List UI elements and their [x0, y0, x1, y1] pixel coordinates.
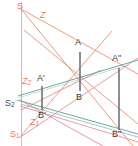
geometry-figure: S Z A A" A' B B' B" Z2 S2 Z1 S1: [0, 0, 138, 146]
label-S2-subscript: 2: [11, 101, 15, 108]
label-A-prime: A': [37, 74, 45, 83]
ray-S2-to-Aprime-extended: [21, 70, 101, 110]
label-B-double-prime: B": [112, 130, 121, 139]
figure-canvas: [0, 0, 138, 146]
label-Z1: Z1: [30, 118, 39, 128]
label-B-prime: B': [38, 111, 46, 120]
label-S1: S1: [10, 130, 20, 140]
label-Z2-subscript: 2: [28, 79, 32, 86]
label-B: B: [76, 93, 82, 102]
line-Aprime-Adprime: [18, 60, 138, 96]
label-Z1-subscript: 1: [36, 120, 40, 127]
label-A-double-prime: A": [112, 54, 121, 63]
label-Z: Z: [40, 11, 46, 20]
label-A: A: [75, 38, 81, 47]
label-S: S: [17, 2, 23, 11]
label-S2: S2: [5, 99, 15, 109]
label-S1-subscript: 1: [16, 132, 20, 139]
label-Z2: Z2: [22, 77, 31, 87]
